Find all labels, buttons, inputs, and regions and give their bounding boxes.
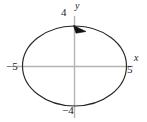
tick-label-x-negative: −5 — [6, 61, 18, 72]
y-axis-label: y — [75, 1, 79, 11]
x-axis-label: x — [134, 53, 138, 63]
tick-label-y-negative: −4 — [62, 105, 74, 116]
ellipse-figure: y x 4 −4 −5 5 — [0, 0, 147, 122]
tick-label-x-positive: 5 — [127, 64, 133, 75]
tick-label-y-positive: 4 — [61, 7, 67, 18]
